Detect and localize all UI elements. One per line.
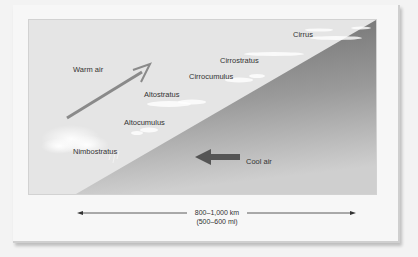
- cold-air-wedge: [76, 20, 376, 194]
- front-illustration: [29, 20, 376, 194]
- cloud-label-cirrostratus: Cirrostratus: [220, 56, 259, 65]
- front-diagram-panel: Warm air Cool air Cirrus Cirrostratus Ci…: [28, 19, 377, 195]
- cloud-label-cirrus: Cirrus: [293, 30, 313, 39]
- warm-air-label: Warm air: [73, 65, 103, 74]
- cool-air-label: Cool air: [246, 157, 272, 166]
- cloud-label-altostratus: Altostratus: [144, 90, 179, 99]
- cloud-label-nimbostratus: Nimbostratus: [73, 147, 117, 156]
- cloud-label-altocumulus: Altocumulus: [124, 118, 165, 127]
- cloud-label-cirrocumulus: Cirrocumulus: [189, 72, 233, 81]
